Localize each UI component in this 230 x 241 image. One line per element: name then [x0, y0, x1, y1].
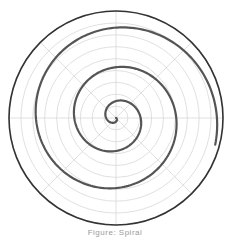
- grid-radial-line: [116, 118, 192, 194]
- chart-caption: Figure: Spiral: [0, 228, 230, 237]
- polar-plot: [0, 0, 230, 241]
- grid-radial-line: [40, 42, 116, 118]
- grid-radial-line: [116, 42, 192, 118]
